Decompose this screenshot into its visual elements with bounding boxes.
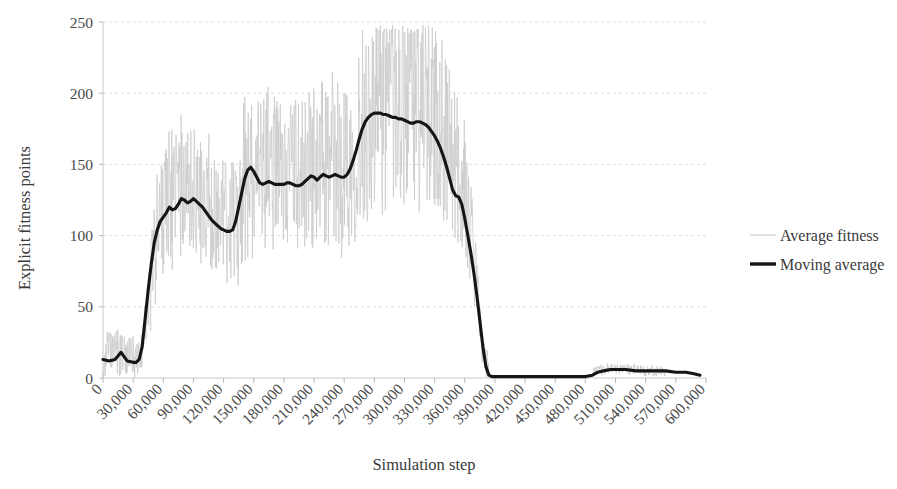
y-tick-label: 150: [70, 156, 94, 173]
chart-canvas: 050100150200250 030,00060,00090,000120,0…: [0, 0, 897, 489]
y-tick-label: 100: [70, 227, 94, 244]
x-axis-title: Simulation step: [372, 455, 475, 474]
x-tickmarks: [103, 378, 706, 383]
y-tick-label: 200: [70, 85, 94, 102]
legend-label-moving-average: Moving average: [780, 256, 884, 274]
legend-label-average-fitness: Average fitness: [780, 227, 879, 245]
y-tick-labels: 050100150200250: [70, 14, 94, 387]
x-tick-labels: 030,00060,00090,000120,000150,000180,000…: [88, 380, 709, 428]
legend: Average fitnessMoving average: [750, 227, 884, 274]
y-tick-label: 50: [78, 298, 94, 315]
fitness-line-chart: 050100150200250 030,00060,00090,000120,0…: [0, 0, 897, 489]
y-axis-title: Explicit fitness points: [15, 146, 34, 290]
y-tick-label: 250: [70, 14, 94, 31]
